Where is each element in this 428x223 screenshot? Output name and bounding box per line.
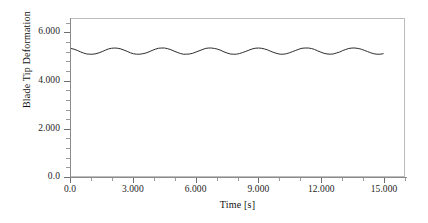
y-tick-major — [64, 32, 70, 33]
y-tick-minor — [66, 42, 70, 43]
y-tick-minor — [66, 119, 70, 120]
x-tick-minor — [154, 178, 155, 181]
x-tick-minor — [300, 178, 301, 181]
x-tick-label: 3.000 — [103, 184, 163, 194]
x-tick-major — [258, 178, 259, 183]
x-tick-label: 15.000 — [354, 184, 414, 194]
y-tick-minor — [66, 100, 70, 101]
y-tick-minor — [66, 23, 70, 24]
y-tick-minor — [66, 138, 70, 139]
x-tick-major — [384, 178, 385, 183]
x-tick-minor — [363, 178, 364, 181]
x-tick-major — [321, 178, 322, 183]
chart-figure: 0.03.0006.0009.00012.00015.0000.02.0004.… — [0, 0, 428, 223]
y-axis-title: Blade Tip Deformation — [21, 0, 32, 130]
y-tick-minor — [66, 158, 70, 159]
y-tick-label: 4.000 — [38, 75, 60, 85]
x-tick-minor — [175, 178, 176, 181]
y-tick-label: 2.000 — [38, 123, 60, 133]
x-axis-line — [70, 177, 407, 178]
y-tick-minor — [66, 52, 70, 53]
x-tick-minor — [217, 178, 218, 181]
x-tick-minor — [91, 178, 92, 181]
x-tick-label: 6.000 — [166, 184, 226, 194]
x-tick-major — [133, 178, 134, 183]
y-tick-minor — [66, 71, 70, 72]
data-series-line — [71, 48, 383, 54]
y-tick-major — [64, 81, 70, 82]
plot-area — [70, 18, 405, 177]
x-axis-title: Time [s] — [220, 199, 255, 210]
x-tick-major — [70, 178, 71, 183]
x-tick-label: 12.000 — [291, 184, 351, 194]
y-tick-label: 0.0 — [48, 171, 60, 181]
x-tick-minor — [279, 178, 280, 181]
x-tick-minor — [112, 178, 113, 181]
y-tick-minor — [66, 110, 70, 111]
x-tick-major — [196, 178, 197, 183]
x-tick-minor — [405, 178, 406, 181]
y-tick-minor — [66, 148, 70, 149]
x-tick-label: 0.0 — [40, 184, 100, 194]
y-tick-minor — [66, 167, 70, 168]
y-tick-label: 6.000 — [38, 26, 60, 36]
y-tick-major — [64, 129, 70, 130]
x-tick-label: 9.000 — [228, 184, 288, 194]
x-tick-minor — [342, 178, 343, 181]
plot-curve-svg — [71, 19, 404, 176]
y-tick-minor — [66, 90, 70, 91]
y-tick-label-wrap: 0.0 — [0, 171, 60, 183]
y-axis-line — [70, 18, 71, 177]
y-tick-major — [64, 177, 70, 178]
y-tick-minor — [66, 61, 70, 62]
x-tick-minor — [238, 178, 239, 181]
